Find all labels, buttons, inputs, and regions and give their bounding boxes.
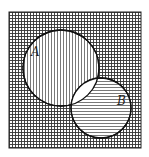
set-b-label: B xyxy=(116,94,126,108)
venn-diagram: A B xyxy=(0,0,149,157)
set-a-label: A xyxy=(30,45,40,59)
